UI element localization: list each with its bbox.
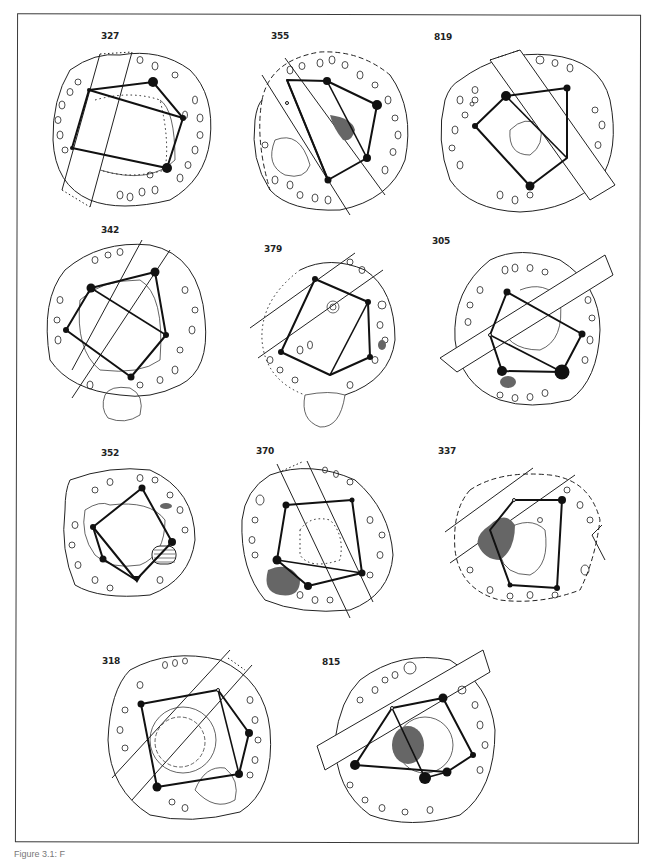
figure-caption: Figure 3.1: F — [14, 849, 65, 859]
